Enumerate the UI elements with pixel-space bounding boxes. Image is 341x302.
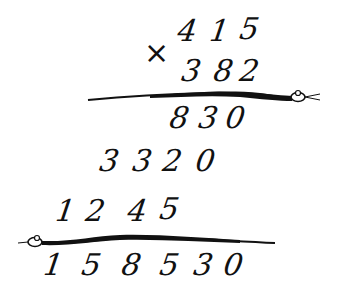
long-multiplication-drawing: 4 1 5 × 3 8 2 8 3 0 3 3 2 0 1 2 4 5 1 5 …: [0, 0, 341, 302]
